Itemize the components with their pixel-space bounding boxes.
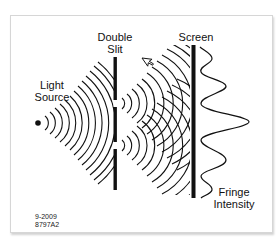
double-slit-label-line1: Double (96, 31, 134, 43)
fringe-intensity-label: Fringe Intensity (209, 186, 259, 210)
figure-code: 8797A2 (35, 221, 59, 229)
figure-date: 9-2009 (35, 213, 59, 221)
double-slit-label-line2: Slit (96, 43, 134, 55)
fringe-intensity-curve (200, 47, 249, 198)
fringe-intensity-label-line1: Fringe (209, 186, 259, 198)
mouse-cursor-icon (142, 54, 155, 68)
slit1-wavefronts (122, 40, 218, 170)
screen-label: Screen (174, 31, 218, 43)
double-slit-barrier (114, 57, 120, 190)
double-slit-label: Double Slit (96, 31, 134, 55)
figure-id: 9-2009 8797A2 (35, 213, 59, 229)
light-source-label: Light Source (32, 79, 72, 103)
screen-bar (192, 45, 196, 198)
light-source-dot (35, 120, 41, 126)
screen-label-text: Screen (174, 31, 218, 43)
light-source-label-line1: Light (32, 79, 72, 91)
fringe-intensity-label-line2: Intensity (209, 198, 259, 210)
light-source-label-line2: Source (32, 91, 72, 103)
